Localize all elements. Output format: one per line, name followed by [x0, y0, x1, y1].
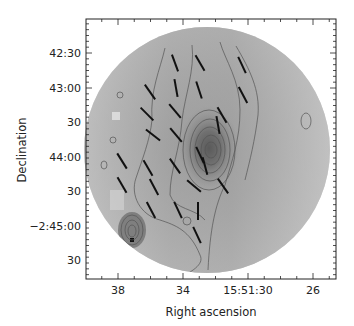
- y-tick-label: −2:45:00: [29, 220, 81, 233]
- y-tick-label: 43:00: [49, 82, 81, 95]
- x-tick-labels: 38 34 15:51:30 26: [111, 284, 320, 297]
- y-tick-label: 30: [67, 254, 81, 267]
- x-tick-label: 34: [176, 284, 190, 297]
- y-tick-labels: 42:30 43:00 30 44:00 30 −2:45:00 30: [29, 47, 81, 267]
- intensity-map: [84, 27, 330, 278]
- y-tick-label: 44:00: [49, 151, 81, 164]
- y-tick-label: 30: [67, 185, 81, 198]
- x-tick-label: 26: [306, 284, 320, 297]
- x-tick-label: 38: [111, 284, 125, 297]
- polarization-map-figure: 38 34 15:51:30 26 42:30 43:00 30 44:00 3…: [0, 0, 354, 326]
- x-axis-title: Right ascension: [165, 305, 256, 319]
- x-tick-label: 15:51:30: [223, 284, 272, 297]
- y-axis-title: Declination: [15, 117, 29, 182]
- y-tick-label: 42:30: [49, 47, 81, 60]
- y-tick-label: 30: [67, 116, 81, 129]
